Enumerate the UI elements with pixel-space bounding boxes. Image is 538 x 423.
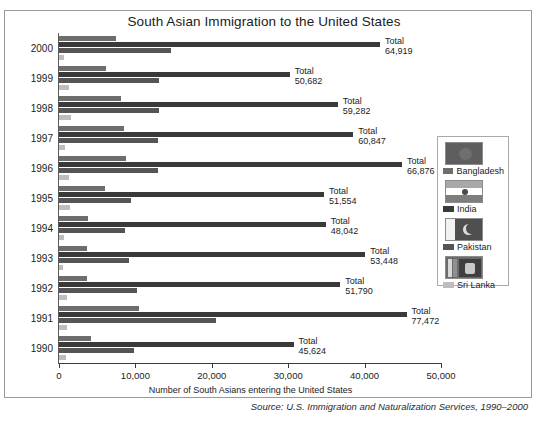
total-label: Total60,847 [358, 126, 386, 146]
bar-bangladesh [59, 276, 87, 281]
bar-pakistan [59, 258, 129, 263]
total-label: Total51,554 [329, 186, 357, 206]
year-group: 1997Total60,847 [59, 126, 441, 156]
x-tick-label: 50,000 [426, 370, 455, 381]
bar-pakistan [59, 138, 158, 143]
bar-india [59, 162, 402, 167]
x-axis-title: Number of South Asians entering the Unit… [59, 385, 442, 395]
plot-area: 2000Total64,9191999Total50,6821998Total5… [59, 33, 441, 363]
bar-srilanka [59, 265, 63, 270]
total-label: Total66,876 [407, 156, 435, 176]
year-axis-label: 1997 [31, 133, 53, 144]
bar-srilanka [59, 325, 67, 330]
year-group: 1998Total59,282 [59, 96, 441, 126]
bar-bangladesh [59, 96, 121, 101]
source-note: Source: U.S. Immigration and Naturalizat… [0, 401, 534, 412]
legend-entry-bangladesh[interactable]: Bangladesh [442, 142, 504, 176]
bar-bangladesh [59, 336, 91, 341]
legend-label-india: India [457, 204, 477, 214]
bar-bangladesh [59, 246, 87, 251]
bar-srilanka [59, 85, 69, 90]
x-tick-label: 20,000 [197, 370, 226, 381]
bar-india [59, 342, 294, 347]
year-axis-label: 1996 [31, 163, 53, 174]
year-axis-label: 2000 [31, 43, 53, 54]
year-group: 2000Total64,919 [59, 36, 441, 66]
total-label: Total48,042 [331, 216, 359, 236]
bar-srilanka [59, 55, 64, 60]
legend-swatch-india [443, 206, 454, 212]
total-label: Total53,448 [370, 246, 398, 266]
pakistan-flag-icon [445, 218, 483, 241]
bar-pakistan [59, 168, 158, 173]
year-axis-label: 1998 [31, 103, 53, 114]
x-tick [441, 363, 442, 368]
year-group: 1993Total53,448 [59, 246, 441, 276]
bar-india [59, 102, 338, 107]
legend-swatch-bangladesh [443, 168, 453, 174]
year-group: 1991Total77,472 [59, 306, 441, 336]
legend-entry-sri-lanka[interactable]: Sri Lanka [442, 256, 504, 290]
bar-pakistan [59, 198, 131, 203]
bar-pakistan [59, 348, 134, 353]
legend-entry-pakistan[interactable]: Pakistan [442, 218, 504, 252]
bar-srilanka [59, 145, 65, 150]
x-tick-label: 0 [56, 370, 61, 381]
total-label: Total59,282 [343, 96, 371, 116]
x-tick-label: 10,000 [121, 370, 150, 381]
bar-bangladesh [59, 36, 116, 41]
year-group: 1995Total51,554 [59, 186, 441, 216]
chart-page: South Asian Immigration to the United St… [0, 0, 538, 423]
legend-swatch-pakistan [443, 244, 454, 250]
bar-srilanka [59, 295, 67, 300]
bar-pakistan [59, 318, 216, 323]
chart-title: South Asian Immigration to the United St… [0, 14, 528, 29]
bar-srilanka [59, 115, 71, 120]
year-group: 1996Total66,876 [59, 156, 441, 186]
year-group: 1990Total45,624 [59, 336, 441, 366]
legend-entry-india[interactable]: India [442, 180, 504, 214]
bar-india [59, 282, 340, 287]
bar-pakistan [59, 48, 171, 53]
bar-india [59, 252, 365, 257]
bar-bangladesh [59, 66, 106, 71]
total-label: Total77,472 [412, 306, 440, 326]
year-axis-label: 1995 [31, 193, 53, 204]
bar-pakistan [59, 228, 125, 233]
bar-srilanka [59, 205, 70, 210]
bar-srilanka [59, 175, 69, 180]
total-label: Total64,919 [385, 36, 413, 56]
total-label: Total45,624 [299, 336, 327, 356]
legend-swatch-sri-lanka [443, 282, 454, 288]
x-tick-label: 30,000 [274, 370, 303, 381]
bar-bangladesh [59, 156, 126, 161]
legend-label-pakistan: Pakistan [457, 242, 492, 252]
bar-bangladesh [59, 306, 139, 311]
bar-srilanka [59, 355, 66, 360]
bar-bangladesh [59, 216, 88, 221]
year-group: 1992Total51,790 [59, 276, 441, 306]
year-axis-label: 1993 [31, 253, 53, 264]
legend-label-sri-lanka: Sri Lanka [457, 280, 495, 290]
bar-india [59, 312, 407, 317]
bar-india [59, 72, 290, 77]
year-group: 1999Total50,682 [59, 66, 441, 96]
india-flag-icon [445, 180, 483, 203]
year-axis-label: 1990 [31, 343, 53, 354]
year-axis-label: 1999 [31, 73, 53, 84]
year-axis-label: 1994 [31, 223, 53, 234]
bar-india [59, 222, 326, 227]
chart-legend: Bangladesh India Pakistan Sri Lanka [437, 136, 509, 286]
bar-pakistan [59, 78, 159, 83]
bar-pakistan [59, 288, 137, 293]
bar-bangladesh [59, 186, 105, 191]
bar-india [59, 192, 324, 197]
bangladesh-flag-icon [445, 142, 483, 165]
year-group: 1994Total48,042 [59, 216, 441, 246]
bar-srilanka [59, 235, 64, 240]
year-axis-label: 1992 [31, 283, 53, 294]
bar-india [59, 42, 380, 47]
bar-bangladesh [59, 126, 124, 131]
total-label: Total51,790 [345, 276, 373, 296]
bar-pakistan [59, 108, 159, 113]
